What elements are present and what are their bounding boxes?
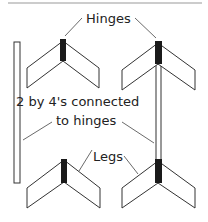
post-leader-left (23, 122, 52, 140)
leg-right (64, 160, 100, 208)
connected-2x4-post (156, 64, 161, 160)
leg-left (122, 161, 158, 208)
diagram: Hinges 2 by 4's connected to hinges Legs (0, 0, 208, 222)
hinge (61, 159, 67, 183)
hinges-leader-left (65, 18, 82, 36)
sawhorse-diagram: Hinges 2 by 4's connected to hinges Legs (0, 0, 208, 222)
leg-right (158, 43, 195, 90)
hinge (155, 159, 162, 183)
leg-left (27, 41, 63, 88)
leg-left (27, 160, 64, 208)
hinge (60, 39, 66, 61)
hinges-leader-right (135, 18, 156, 38)
top-left-leg-assembly (27, 39, 99, 88)
two-by-fours-label-line2: to hinges (56, 113, 117, 128)
leg-right (63, 41, 99, 88)
bottom-right-leg-assembly (122, 159, 195, 208)
loose-2x4-post (14, 42, 20, 183)
leg-left (122, 43, 158, 90)
legs-leader-left (79, 150, 92, 171)
legs-label: Legs (93, 149, 123, 164)
hinges-label: Hinges (86, 11, 131, 26)
hinge (155, 41, 162, 64)
post-leader-right (122, 122, 154, 143)
leg-right (158, 161, 195, 208)
two-by-fours-label-line1: 2 by 4's connected (16, 94, 139, 109)
legs-leader-right (124, 156, 138, 174)
bottom-left-leg-assembly (27, 159, 100, 208)
